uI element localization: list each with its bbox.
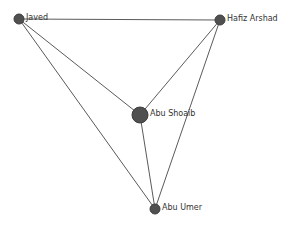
node-circle-icon[interactable]: [215, 15, 225, 25]
node-circle-icon[interactable]: [14, 14, 24, 24]
edge-javed-hafiz: [19, 19, 220, 20]
node-label: Abu Umer: [162, 203, 203, 212]
node-circle-icon[interactable]: [132, 107, 148, 123]
node-hafiz[interactable]: Hafiz Arshad: [215, 14, 278, 25]
node-label: Abu Shoaib: [150, 109, 195, 118]
node-label: Javed: [25, 13, 48, 22]
node-circle-icon[interactable]: [150, 204, 160, 214]
node-label: Hafiz Arshad: [227, 14, 278, 23]
nodes-layer: JavedHafiz ArshadAbu ShoaibAbu Umer: [14, 13, 278, 214]
network-graph: JavedHafiz ArshadAbu ShoaibAbu Umer: [0, 0, 291, 225]
node-umer[interactable]: Abu Umer: [150, 203, 203, 214]
edge-shoaib-umer: [140, 115, 155, 209]
node-javed[interactable]: Javed: [14, 13, 48, 24]
edge-hafiz-shoaib: [140, 20, 220, 115]
edge-javed-shoaib: [19, 19, 140, 115]
